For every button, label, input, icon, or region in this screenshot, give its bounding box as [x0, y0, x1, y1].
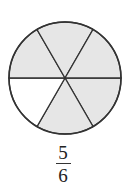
fraction-numerator: 5 — [50, 143, 76, 162]
fraction-label: 5 6 — [50, 143, 76, 185]
fraction-denominator: 6 — [50, 166, 76, 185]
fraction-bar — [56, 163, 71, 164]
